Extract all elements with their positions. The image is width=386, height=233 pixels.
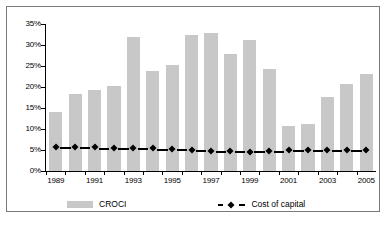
bar-slot	[221, 24, 240, 171]
x-axis-label-2000	[259, 177, 278, 189]
bar-slot	[201, 24, 220, 171]
bar-1989	[49, 112, 62, 171]
y-tick-label-0: 0%	[30, 167, 41, 175]
x-axis-label-1989: 1989	[46, 177, 65, 189]
bar-1998	[224, 54, 237, 171]
legend-swatch-dashed-diamond-icon	[218, 201, 246, 208]
x-axis-label-1994	[143, 177, 162, 189]
x-axis-label-2001: 2001	[279, 177, 298, 189]
legend-label-cost-of-capital: Cost of capital	[251, 199, 305, 209]
bar-slot	[124, 24, 143, 171]
bar-slot	[318, 24, 337, 171]
x-axis-label-1991: 1991	[85, 177, 104, 189]
bar-slot	[162, 24, 181, 171]
bar-slot	[298, 24, 317, 171]
bar-1999	[243, 40, 256, 171]
x-axis-label-1992	[104, 177, 123, 189]
legend-item-cost-of-capital: Cost of capital	[218, 199, 305, 209]
bar-slot	[65, 24, 84, 171]
x-axis-label-1995: 1995	[162, 177, 181, 189]
bar-2000	[263, 69, 276, 171]
bar-1995	[166, 65, 179, 171]
bar-1997	[204, 33, 217, 171]
figure-caption	[0, 224, 386, 233]
x-axis-label-2004	[337, 177, 356, 189]
x-axis-label-1993: 1993	[124, 177, 143, 189]
figure-container: 35% 30% 25% 20% 15% 10% 5% 0% 1989199119…	[0, 0, 386, 233]
bar-1996	[185, 35, 198, 171]
bar-slot	[357, 24, 376, 171]
y-tick-label-15: 15%	[26, 104, 41, 112]
bar-1992	[107, 86, 120, 171]
bar-slot	[143, 24, 162, 171]
x-axis-label-2003: 2003	[318, 177, 337, 189]
bar-2003	[321, 97, 334, 171]
bar-series-croci	[46, 24, 376, 171]
x-tickmark-1996	[182, 172, 201, 176]
x-tickmark-1992	[104, 172, 123, 176]
x-tickmark-2002	[298, 172, 317, 176]
bar-1993	[127, 37, 140, 171]
bar-2002	[301, 124, 314, 171]
bar-slot	[182, 24, 201, 171]
x-tickmark-2004	[337, 172, 356, 176]
bar-1990	[69, 94, 82, 171]
y-tick-label-30: 30%	[26, 41, 41, 49]
bar-1994	[146, 71, 159, 171]
x-axis-label-1996	[182, 177, 201, 189]
bar-slot	[104, 24, 123, 171]
x-axis-label-1990	[65, 177, 84, 189]
bar-slot	[240, 24, 259, 171]
legend-swatch-bar-icon	[67, 201, 93, 208]
chart-frame: 35% 30% 25% 20% 15% 10% 5% 0% 1989199119…	[6, 6, 380, 212]
legend-item-croci: CROCI	[67, 199, 126, 209]
y-tick-label-35: 35%	[26, 20, 41, 28]
bar-slot	[85, 24, 104, 171]
legend-label-croci: CROCI	[99, 199, 126, 209]
y-axis-labels: 35% 30% 25% 20% 15% 10% 5% 0%	[7, 7, 41, 233]
bar-1991	[88, 90, 101, 171]
bar-slot	[259, 24, 278, 171]
y-tick-label-25: 25%	[26, 62, 41, 70]
x-axis-label-1998	[221, 177, 240, 189]
x-tickmark-1998	[221, 172, 240, 176]
x-axis-label-1999: 1999	[240, 177, 259, 189]
chart-legend: CROCI Cost of capital	[45, 196, 375, 212]
x-tickmark-1994	[143, 172, 162, 176]
bar-2004	[340, 84, 353, 171]
bar-slot	[337, 24, 356, 171]
bar-2001	[282, 126, 295, 171]
bar-2005	[360, 74, 373, 171]
y-tick-label-10: 10%	[26, 125, 41, 133]
bar-slot	[46, 24, 65, 171]
x-axis-label-2002	[298, 177, 317, 189]
bar-slot	[279, 24, 298, 171]
x-tickmark-1990	[65, 172, 84, 176]
x-tickmark-2000	[259, 172, 278, 176]
y-tick-label-20: 20%	[26, 83, 41, 91]
x-axis-label-2005: 2005	[357, 177, 376, 189]
y-tick-label-5: 5%	[30, 146, 41, 154]
x-axis-labels: 198919911993199519971999200120032005	[46, 177, 376, 189]
x-axis-label-1997: 1997	[201, 177, 220, 189]
